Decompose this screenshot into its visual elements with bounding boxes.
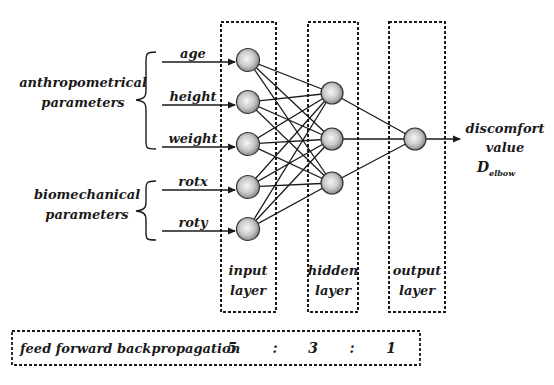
input-label-roty: roty: [178, 215, 209, 230]
output-label-discomfort: discomfort: [466, 121, 545, 136]
input-label-height: height: [169, 89, 216, 104]
input-label-rotx: rotx: [178, 174, 208, 189]
footer-ratio-hidden: 3: [308, 340, 318, 356]
input-arrows: [162, 62, 235, 231]
hidden-nodes: [321, 82, 343, 194]
hidden-node: [321, 172, 343, 194]
input-nodes: [237, 49, 260, 241]
input-label-weight: weight: [169, 131, 218, 146]
group-label-anthropometrical: anthropometrical: [19, 75, 147, 90]
output-label-value: value: [486, 140, 525, 155]
group-label-anthropometrical-2: parameters: [41, 95, 125, 110]
footer-ratio-input: 5: [227, 340, 237, 356]
input-layer-label-2: layer: [230, 283, 267, 298]
footer-ratio-sep-2: :: [349, 340, 354, 356]
footer-ratio-output: 1: [386, 340, 396, 356]
input-hidden-connections: [248, 60, 332, 229]
output-layer-label-2: layer: [399, 283, 436, 298]
hidden-node: [321, 82, 343, 104]
output-layer-label: output: [393, 263, 442, 278]
output-symbol: D: [476, 159, 490, 175]
input-layer-label: input: [229, 263, 268, 278]
footer-ratio-sep-1: :: [272, 340, 277, 356]
footer-method: feed forward backpropagation: [19, 341, 240, 356]
group-label-biomechanical-2: parameters: [45, 207, 129, 222]
neural-network-diagram: age height weight rotx roty anthropometr…: [0, 0, 554, 385]
hidden-layer-label: hidden: [308, 263, 358, 278]
input-node: [237, 91, 260, 114]
input-node: [237, 176, 260, 199]
hidden-output-connections: [332, 93, 415, 183]
output-subscript: elbow: [489, 168, 516, 178]
input-node: [237, 133, 260, 156]
output-label-symbol: Delbow: [476, 159, 516, 178]
input-node: [237, 49, 260, 72]
anthropometrical-brace: [136, 52, 156, 149]
input-node: [237, 218, 260, 241]
input-label-age: age: [180, 46, 206, 61]
hidden-node: [321, 128, 343, 150]
group-label-biomechanical: biomechanical: [34, 187, 140, 202]
hidden-layer-label-2: layer: [315, 283, 352, 298]
output-node: [404, 128, 426, 150]
